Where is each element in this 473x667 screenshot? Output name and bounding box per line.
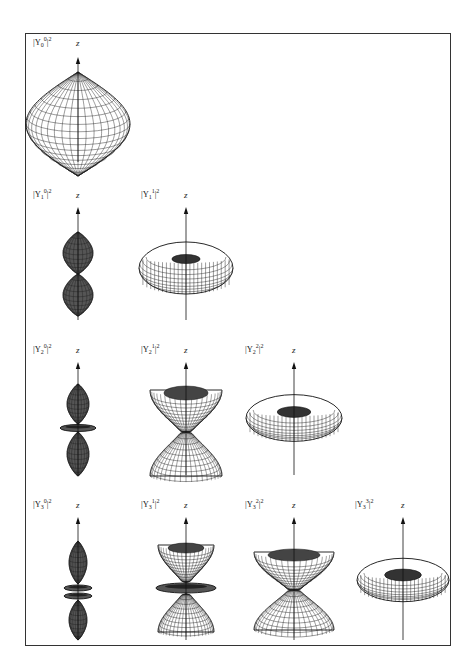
z-axis-arrowhead-icon <box>76 362 80 369</box>
panel-label: |Y10|2 <box>33 188 52 200</box>
panel-label: |Y00|2 <box>33 36 52 48</box>
panel-label: |Y33|2 <box>355 498 374 510</box>
z-axis-label: z <box>183 500 188 510</box>
z-axis-label: z <box>75 345 80 355</box>
z-axis-label: z <box>75 38 80 48</box>
panel-label: |Y32|2 <box>245 498 264 510</box>
spherical-harmonics-figure: |Y00|2z|Y10|2z|Y11|2z|Y20|2z|Y21|2z|Y22|… <box>0 0 473 667</box>
panel-label: |Y11|2 <box>141 188 159 200</box>
panel-label: |Y20|2 <box>33 343 52 355</box>
panel-y33: |Y33|2z <box>355 498 449 640</box>
z-axis-arrowhead-icon <box>184 207 188 214</box>
z-axis-label: z <box>183 345 188 355</box>
z-axis-arrowhead-icon <box>184 362 188 369</box>
z-axis-arrowhead-icon <box>292 362 296 369</box>
panel-label: |Y21|2 <box>141 343 160 355</box>
z-axis-label: z <box>291 500 296 510</box>
panel-y00: |Y00|2z <box>26 36 130 176</box>
panel-y11: |Y11|2z <box>139 188 233 320</box>
panel-y31: |Y31|2z <box>141 498 216 640</box>
z-axis-label: z <box>75 500 80 510</box>
z-axis-label: z <box>75 190 80 200</box>
panel-y10: |Y10|2z <box>33 188 93 320</box>
z-axis-arrowhead-icon <box>76 57 80 64</box>
z-axis-arrowhead-icon <box>292 517 296 524</box>
z-axis-label: z <box>400 500 405 510</box>
panel-y22: |Y22|2z <box>245 343 342 475</box>
z-axis-label: z <box>291 345 296 355</box>
panel-label: |Y31|2 <box>141 498 160 510</box>
panel-y30: |Y30|2z <box>33 498 92 640</box>
panel-y20: |Y20|2z <box>33 343 96 476</box>
z-axis-arrowhead-icon <box>76 517 80 524</box>
panel-y21: |Y21|2z <box>141 343 222 482</box>
z-axis-arrowhead-icon <box>401 517 405 524</box>
z-axis-arrowhead-icon <box>184 517 188 524</box>
z-axis-arrowhead-icon <box>76 207 80 214</box>
panel-label: |Y22|2 <box>245 343 264 355</box>
panel-label: |Y30|2 <box>33 498 52 510</box>
panel-y32: |Y32|2z <box>245 498 334 640</box>
z-axis-label: z <box>183 190 188 200</box>
